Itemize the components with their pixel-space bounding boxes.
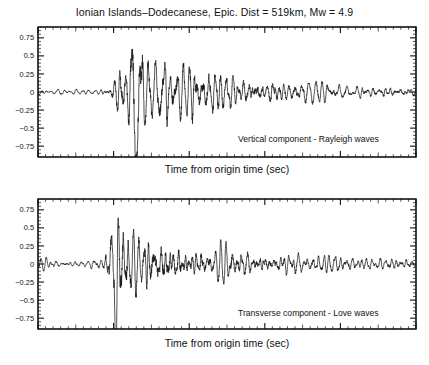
xtick-label: 100 <box>107 160 119 162</box>
ytick-label: 0.75 <box>20 33 34 42</box>
xtick-label: 300 <box>259 332 271 334</box>
annotation-vertical: Vertical component - Rayleigh waves <box>238 134 379 144</box>
ytick-label: −0.25 <box>15 106 34 115</box>
ytick-label: −0.75 <box>15 314 34 323</box>
xaxis-label-bottom: Time from origin time (sec) <box>38 337 416 349</box>
figure-title: Ionian Islands–Dodecanese, Epic. Dist = … <box>0 6 429 18</box>
ytick-label: 0.25 <box>20 242 34 251</box>
ytick-label: −0.5 <box>19 296 34 305</box>
ytick-label: 0.25 <box>20 70 34 79</box>
ytick-label: 0.75 <box>20 205 34 214</box>
xtick-label: 400 <box>334 160 346 162</box>
ytick-label: 0.5 <box>24 51 34 60</box>
xtick-label: 200 <box>183 332 195 334</box>
xaxis-label-top: Time from origin time (sec) <box>38 163 416 175</box>
xtick-label: 100 <box>107 332 119 334</box>
annotation-transverse: Transverse component - Love waves <box>238 308 379 318</box>
xtick-label: 500 <box>404 332 416 334</box>
xtick-label: 200 <box>183 160 195 162</box>
seismogram-figure: Ionian Islands–Dodecanese, Epic. Dist = … <box>0 0 429 365</box>
xtick-label: 400 <box>334 332 346 334</box>
xtick-label: 300 <box>259 160 271 162</box>
ytick-label: −0.25 <box>15 278 34 287</box>
xtick-label: 0 <box>38 332 42 334</box>
xtick-label: 0 <box>38 160 42 162</box>
ytick-label: −0.75 <box>15 142 34 151</box>
ytick-label: −0.5 <box>19 124 34 133</box>
ytick-label: 0 <box>30 260 34 269</box>
xtick-label: 500 <box>404 160 416 162</box>
ytick-label: 0.5 <box>24 223 34 232</box>
ytick-label: 0 <box>30 88 34 97</box>
